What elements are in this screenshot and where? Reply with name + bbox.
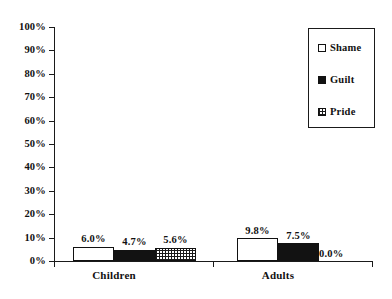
bar-label-children-guilt: 4.7%	[114, 237, 155, 248]
y-tick-label-30: 30%	[2, 186, 46, 197]
bar-adults-guilt	[278, 243, 319, 261]
y-tick-label-100: 100%	[2, 22, 46, 33]
legend: Shame Guilt Pride	[308, 28, 375, 128]
y-tick-label-0: 0%	[2, 256, 46, 267]
y-tick-label-90: 90%	[2, 45, 46, 56]
y-tick-label-50: 50%	[2, 139, 46, 150]
bar-chart: 100% 90% 80% 70% 60% 50% 40% 30%	[0, 0, 392, 299]
white-square-icon	[318, 44, 326, 52]
legend-label-pride: Pride	[330, 107, 356, 118]
legend-item-shame: Shame	[318, 43, 361, 54]
x-category-label-adults: Adults	[238, 269, 318, 281]
x-tick-group-separator	[213, 261, 214, 267]
bar-children-pride	[155, 248, 196, 261]
black-square-icon	[318, 76, 326, 84]
bar-label-children-pride: 5.6%	[155, 235, 196, 246]
bar-label-adults-pride: 0.0%	[319, 249, 367, 260]
legend-item-guilt: Guilt	[318, 75, 354, 86]
bar-label-adults-guilt: 7.5%	[278, 231, 319, 242]
crosshatch-square-icon	[318, 108, 326, 116]
y-tick-label-10: 10%	[2, 233, 46, 244]
legend-item-pride: Pride	[318, 107, 356, 118]
y-tick-label-70: 70%	[2, 92, 46, 103]
legend-label-shame: Shame	[330, 43, 361, 54]
bar-label-adults-shame: 9.8%	[237, 226, 278, 237]
y-tick-label-60: 60%	[2, 116, 46, 127]
bar-adults-shame	[237, 238, 278, 261]
bar-label-children-shame: 6.0%	[73, 234, 114, 245]
x-tick-end	[372, 261, 373, 267]
x-category-label-children: Children	[74, 269, 154, 281]
bar-children-guilt	[114, 250, 155, 261]
bar-children-shame	[73, 247, 114, 261]
legend-label-guilt: Guilt	[330, 75, 354, 86]
y-tick-label-80: 80%	[2, 69, 46, 80]
y-tick-label-20: 20%	[2, 209, 46, 220]
x-tick-start	[54, 261, 55, 267]
y-tick-label-40: 40%	[2, 162, 46, 173]
